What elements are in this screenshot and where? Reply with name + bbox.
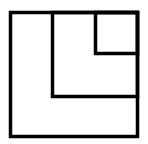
nested-squares-diagram [0, 0, 148, 144]
inner-square [96, 13, 138, 54]
outer-square [11, 13, 138, 137]
